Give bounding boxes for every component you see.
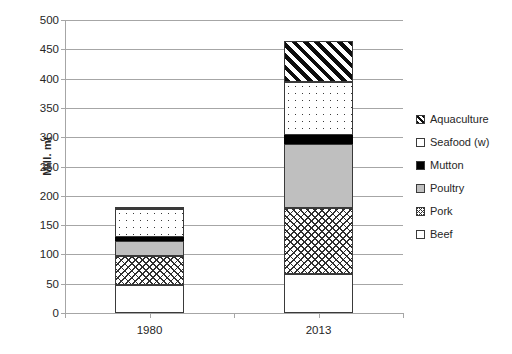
legend-item-label: Beef bbox=[430, 229, 453, 240]
x-axis-tick-label: 1980 bbox=[137, 324, 163, 336]
bar-segment-mutton[interactable] bbox=[115, 237, 184, 241]
y-tick-mark bbox=[61, 225, 65, 226]
legend-item-label: Seafood (w) bbox=[430, 137, 489, 148]
bar-segment-poultry[interactable] bbox=[115, 241, 184, 256]
bar-1980[interactable] bbox=[115, 20, 184, 313]
x-axis-boundary-tick bbox=[403, 313, 404, 318]
bar-segment-aquaculture[interactable] bbox=[284, 41, 353, 81]
legend-item-label: Pork bbox=[430, 206, 453, 217]
bar-segment-beef[interactable] bbox=[284, 274, 353, 313]
bar-segment-pork[interactable] bbox=[115, 256, 184, 286]
stacked-bar-chart: Mill. mt 0501001502002503003504004505001… bbox=[0, 0, 512, 354]
legend-item-pork[interactable]: Pork bbox=[416, 200, 510, 223]
legend-item-label: Poultry bbox=[430, 183, 464, 194]
bar-segment-pork[interactable] bbox=[284, 208, 353, 274]
y-tick-mark bbox=[61, 137, 65, 138]
y-tick-mark bbox=[61, 254, 65, 255]
legend-item-seafood-w[interactable]: Seafood (w) bbox=[416, 131, 510, 154]
x-axis-boundary-tick bbox=[234, 313, 235, 318]
bar-segment-seafood-w[interactable] bbox=[284, 82, 353, 136]
legend-item-aquaculture[interactable]: Aquaculture bbox=[416, 108, 510, 131]
legend-swatch-icon bbox=[416, 115, 425, 124]
legend-item-beef[interactable]: Beef bbox=[416, 223, 510, 246]
y-tick-mark bbox=[61, 20, 65, 21]
legend-item-mutton[interactable]: Mutton bbox=[416, 154, 510, 177]
bar-segment-beef[interactable] bbox=[115, 285, 184, 313]
y-tick-mark bbox=[61, 79, 65, 80]
y-tick-mark bbox=[61, 196, 65, 197]
chart-legend: AquacultureSeafood (w)MuttonPoultryPorkB… bbox=[416, 108, 510, 246]
x-tick-mark bbox=[319, 313, 320, 318]
legend-item-label: Aquaculture bbox=[430, 114, 489, 125]
y-axis-tick-label: 150 bbox=[40, 219, 59, 231]
legend-item-label: Mutton bbox=[430, 160, 464, 171]
y-axis-tick-label: 450 bbox=[40, 43, 59, 55]
legend-swatch-icon bbox=[416, 230, 425, 239]
y-axis-title: Mill. mt bbox=[41, 111, 53, 201]
legend-swatch-icon bbox=[416, 207, 425, 216]
bar-segment-seafood-w[interactable] bbox=[115, 209, 184, 237]
legend-item-poultry[interactable]: Poultry bbox=[416, 177, 510, 200]
y-tick-mark bbox=[61, 49, 65, 50]
y-tick-mark bbox=[61, 108, 65, 109]
y-axis-tick-label: 400 bbox=[40, 73, 59, 85]
y-axis-tick-label: 250 bbox=[40, 161, 59, 173]
y-tick-mark bbox=[61, 284, 65, 285]
legend-swatch-icon bbox=[416, 184, 425, 193]
bar-segment-mutton[interactable] bbox=[284, 135, 353, 143]
legend-swatch-icon bbox=[416, 161, 425, 170]
plot-area: 05010015020025030035040045050019802013 bbox=[65, 20, 403, 313]
bar-2013[interactable] bbox=[284, 20, 353, 313]
y-tick-mark bbox=[61, 167, 65, 168]
legend-swatch-icon bbox=[416, 138, 425, 147]
y-axis-tick-label: 50 bbox=[46, 278, 59, 290]
bar-segment-aquaculture[interactable] bbox=[115, 207, 184, 209]
y-axis-tick-label: 0 bbox=[53, 307, 59, 319]
x-axis-tick-label: 2013 bbox=[306, 324, 332, 336]
y-axis-tick-label: 500 bbox=[40, 14, 59, 26]
x-tick-mark bbox=[150, 313, 151, 318]
bar-segment-poultry[interactable] bbox=[284, 144, 353, 208]
x-axis-boundary-tick bbox=[65, 313, 66, 318]
y-axis-tick-label: 300 bbox=[40, 131, 59, 143]
y-axis-tick-label: 100 bbox=[40, 248, 59, 260]
y-axis-tick-label: 200 bbox=[40, 190, 59, 202]
y-axis-tick-label: 350 bbox=[40, 102, 59, 114]
